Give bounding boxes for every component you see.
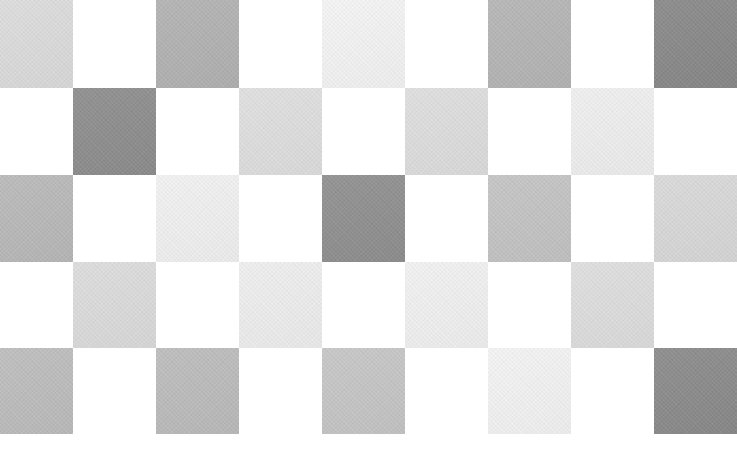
- grid-square-r3c7: [488, 175, 571, 262]
- grid-square-r5c3: [156, 348, 239, 434]
- grid-square-r2c6: [405, 88, 488, 175]
- grid-square-r5c7: [488, 348, 571, 434]
- grid-square-r2c2: [73, 88, 156, 175]
- grid-square-r4c2: [73, 262, 156, 348]
- grid-square-r3c1: [0, 175, 73, 262]
- grid-square-r2c4: [239, 88, 322, 175]
- grid-square-r5c1: [0, 348, 73, 434]
- grid-square-r5c5: [322, 348, 405, 434]
- grid-square-r3c3: [156, 175, 239, 262]
- checkerboard-pattern: [0, 0, 737, 475]
- grid-square-r2c8: [571, 88, 654, 175]
- grid-square-r1c3: [156, 0, 239, 88]
- grid-square-r3c5: [322, 175, 405, 262]
- grid-square-r4c8: [571, 262, 654, 348]
- grid-square-r1c1: [0, 0, 73, 88]
- grid-square-r1c7: [488, 0, 571, 88]
- grid-square-r3c9: [654, 175, 737, 262]
- grid-square-r1c9: [654, 0, 737, 88]
- grid-square-r4c4: [239, 262, 322, 348]
- grid-square-r4c6: [405, 262, 488, 348]
- grid-square-r1c5: [322, 0, 405, 88]
- grid-square-r5c9: [654, 348, 737, 434]
